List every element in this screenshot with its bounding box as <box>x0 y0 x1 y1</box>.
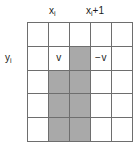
grid-cell-value: v <box>56 53 62 63</box>
grid-cell-r5-c2 <box>49 118 69 141</box>
grid-cell-r4-c5 <box>112 94 132 117</box>
grid-cell-r5-c5 <box>112 118 132 141</box>
column-label-xi-plus-1-suffix: +1 <box>93 5 104 16</box>
grid-diagram: xi xi+1 yi v−v <box>0 0 140 147</box>
row-label-yi-subscript: i <box>10 57 12 64</box>
cell-grid: v−v <box>27 22 133 142</box>
grid-cell-r4-c4 <box>91 94 111 117</box>
grid-cell-r4-c2 <box>49 94 69 117</box>
grid-cell-r3-c4 <box>91 71 111 94</box>
grid-cell-r1-c2 <box>49 23 69 46</box>
grid-cell-r2-c4: −v <box>91 47 111 70</box>
grid-cell-r2-c3 <box>70 47 90 70</box>
grid-cell-r2-c5 <box>112 47 132 70</box>
grid-cell-r4-c1 <box>28 94 48 117</box>
grid-cell-value: −v <box>95 53 107 63</box>
grid-cell-r2-c1 <box>28 47 48 70</box>
row-label-yi: yi <box>5 52 12 66</box>
column-label-xi: xi <box>49 5 56 19</box>
grid-cell-r5-c3 <box>70 118 90 141</box>
grid-cell-r1-c3 <box>70 23 90 46</box>
grid-cell-r3-c1 <box>28 71 48 94</box>
grid-cell-r1-c4 <box>91 23 111 46</box>
grid-cell-r4-c3 <box>70 94 90 117</box>
grid-cell-r2-c2: v <box>49 47 69 70</box>
grid-cell-r1-c5 <box>112 23 132 46</box>
grid-cell-r1-c1 <box>28 23 48 46</box>
column-label-xi-subscript: i <box>54 10 56 17</box>
grid-cell-r5-c4 <box>91 118 111 141</box>
grid-cell-r3-c3 <box>70 71 90 94</box>
grid-cell-r3-c2 <box>49 71 69 94</box>
column-label-xi-plus-1: xi+1 <box>86 5 104 19</box>
grid-cell-r5-c1 <box>28 118 48 141</box>
grid-cell-r3-c5 <box>112 71 132 94</box>
